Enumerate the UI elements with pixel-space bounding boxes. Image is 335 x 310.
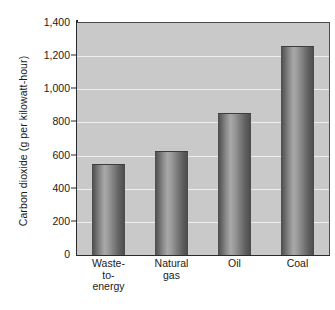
y-axis-tick-label: 200 (20, 215, 70, 227)
y-axis-tick-label: 1,000 (20, 82, 70, 94)
x-axis-tick-label: Coal (266, 258, 329, 270)
bar (92, 164, 125, 255)
x-axis-tick-labels: Waste-to-energyNaturalgasOilCoal (77, 258, 329, 310)
y-axis-tick-mark (71, 154, 77, 155)
x-axis-tick-label-line: Natural (140, 258, 203, 270)
y-axis-tick-label: 800 (20, 115, 70, 127)
x-axis-tick-label: Naturalgas (140, 258, 203, 281)
y-axis-tick-mark (71, 121, 77, 122)
bar (155, 151, 188, 255)
x-axis-tick-label-line: Oil (203, 258, 266, 270)
y-axis-tick-label: 400 (20, 182, 70, 194)
bar (218, 113, 251, 255)
plot-area (77, 22, 330, 255)
y-axis-tick-label: 0 (20, 248, 70, 260)
y-axis-tick-mark (71, 55, 77, 56)
x-axis-tick-label-line: Waste- (77, 258, 140, 270)
x-axis-tick-label: Waste-to-energy (77, 258, 140, 293)
x-axis-tick-label-line: energy (77, 281, 140, 293)
y-axis-tick-labels: 02004006008001,0001,2001,400 (20, 0, 70, 310)
bar-chart: Carbon dioxide (g per kilowatt-hour) 020… (0, 0, 335, 310)
y-axis-tick-mark (71, 220, 77, 221)
x-axis-tick-label: Oil (203, 258, 266, 270)
y-axis-tick-label: 600 (20, 149, 70, 161)
y-axis-tick-label: 1,400 (20, 16, 70, 28)
y-axis-tick-mark (71, 88, 77, 89)
x-axis-tick-label-line: gas (140, 270, 203, 282)
y-axis-tick-mark (71, 187, 77, 188)
y-axis-tick-label: 1,200 (20, 49, 70, 61)
bar (281, 46, 314, 255)
x-axis-tick-label-line: Coal (266, 258, 329, 270)
